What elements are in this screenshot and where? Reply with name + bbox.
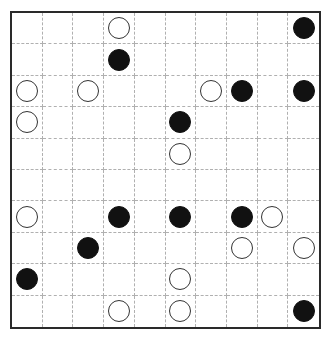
grid-cell-r0-c5[interactable] xyxy=(166,13,197,44)
grid-cell-r3-c7[interactable] xyxy=(227,107,258,138)
grid-cell-r9-c1[interactable] xyxy=(43,296,74,327)
grid-cell-r4-c6[interactable] xyxy=(196,139,227,170)
grid-cell-r7-c2[interactable] xyxy=(73,233,104,264)
grid-cell-r5-c8[interactable] xyxy=(258,170,289,201)
grid-cell-r5-c0[interactable] xyxy=(12,170,43,201)
grid-cell-r2-c5[interactable] xyxy=(166,76,197,107)
grid-cell-r9-c2[interactable] xyxy=(73,296,104,327)
grid-cell-r7-c3[interactable] xyxy=(104,233,135,264)
grid-cell-r8-c0[interactable] xyxy=(12,264,43,295)
grid-cell-r4-c3[interactable] xyxy=(104,139,135,170)
grid-cell-r6-c3[interactable] xyxy=(104,201,135,232)
grid-cell-r9-c4[interactable] xyxy=(135,296,166,327)
grid-cell-r1-c9[interactable] xyxy=(288,44,319,75)
grid-cell-r0-c3[interactable] xyxy=(104,13,135,44)
grid-cell-r6-c4[interactable] xyxy=(135,201,166,232)
grid-cell-r9-c3[interactable] xyxy=(104,296,135,327)
grid-cell-r5-c2[interactable] xyxy=(73,170,104,201)
grid-cell-r6-c8[interactable] xyxy=(258,201,289,232)
grid-cell-r1-c2[interactable] xyxy=(73,44,104,75)
grid-cell-r4-c2[interactable] xyxy=(73,139,104,170)
grid-cell-r9-c8[interactable] xyxy=(258,296,289,327)
grid-cell-r2-c8[interactable] xyxy=(258,76,289,107)
grid-cell-r9-c9[interactable] xyxy=(288,296,319,327)
grid-cell-r3-c1[interactable] xyxy=(43,107,74,138)
grid-cell-r2-c2[interactable] xyxy=(73,76,104,107)
grid-cell-r0-c7[interactable] xyxy=(227,13,258,44)
grid-cell-r5-c6[interactable] xyxy=(196,170,227,201)
grid-cell-r4-c0[interactable] xyxy=(12,139,43,170)
grid-cell-r3-c9[interactable] xyxy=(288,107,319,138)
grid-cell-r7-c1[interactable] xyxy=(43,233,74,264)
grid-cell-r4-c7[interactable] xyxy=(227,139,258,170)
grid-cell-r1-c4[interactable] xyxy=(135,44,166,75)
grid-cell-r8-c4[interactable] xyxy=(135,264,166,295)
grid-cell-r8-c6[interactable] xyxy=(196,264,227,295)
grid-cell-r7-c8[interactable] xyxy=(258,233,289,264)
grid-cell-r0-c1[interactable] xyxy=(43,13,74,44)
grid-cell-r5-c1[interactable] xyxy=(43,170,74,201)
grid-cell-r4-c8[interactable] xyxy=(258,139,289,170)
grid-cell-r9-c6[interactable] xyxy=(196,296,227,327)
grid-cell-r1-c1[interactable] xyxy=(43,44,74,75)
grid-cell-r3-c0[interactable] xyxy=(12,107,43,138)
grid-cell-r7-c9[interactable] xyxy=(288,233,319,264)
grid-cell-r9-c0[interactable] xyxy=(12,296,43,327)
grid-cell-r6-c2[interactable] xyxy=(73,201,104,232)
grid-cell-r0-c8[interactable] xyxy=(258,13,289,44)
grid-cell-r5-c5[interactable] xyxy=(166,170,197,201)
grid-cell-r3-c8[interactable] xyxy=(258,107,289,138)
grid-cell-r7-c7[interactable] xyxy=(227,233,258,264)
grid-cell-r6-c7[interactable] xyxy=(227,201,258,232)
grid-cell-r3-c3[interactable] xyxy=(104,107,135,138)
grid-cell-r6-c5[interactable] xyxy=(166,201,197,232)
grid-cell-r9-c7[interactable] xyxy=(227,296,258,327)
grid-cell-r1-c3[interactable] xyxy=(104,44,135,75)
grid-cell-r6-c9[interactable] xyxy=(288,201,319,232)
grid-cell-r2-c0[interactable] xyxy=(12,76,43,107)
grid-cell-r8-c1[interactable] xyxy=(43,264,74,295)
grid-cell-r5-c7[interactable] xyxy=(227,170,258,201)
grid-cell-r0-c6[interactable] xyxy=(196,13,227,44)
grid-cell-r9-c5[interactable] xyxy=(166,296,197,327)
grid-cell-r1-c5[interactable] xyxy=(166,44,197,75)
grid-cell-r8-c7[interactable] xyxy=(227,264,258,295)
grid-cell-r3-c5[interactable] xyxy=(166,107,197,138)
grid-cell-r2-c6[interactable] xyxy=(196,76,227,107)
grid-cell-r2-c7[interactable] xyxy=(227,76,258,107)
grid-cell-r0-c0[interactable] xyxy=(12,13,43,44)
grid-cell-r4-c4[interactable] xyxy=(135,139,166,170)
grid-cell-r7-c0[interactable] xyxy=(12,233,43,264)
grid-cell-r1-c8[interactable] xyxy=(258,44,289,75)
grid-cell-r1-c7[interactable] xyxy=(227,44,258,75)
grid-cell-r2-c4[interactable] xyxy=(135,76,166,107)
grid-cell-r7-c5[interactable] xyxy=(166,233,197,264)
grid-cell-r6-c1[interactable] xyxy=(43,201,74,232)
grid-cell-r8-c8[interactable] xyxy=(258,264,289,295)
grid-cell-r3-c6[interactable] xyxy=(196,107,227,138)
grid-cell-r4-c9[interactable] xyxy=(288,139,319,170)
grid-cell-r0-c9[interactable] xyxy=(288,13,319,44)
grid-cell-r2-c9[interactable] xyxy=(288,76,319,107)
grid-cell-r0-c4[interactable] xyxy=(135,13,166,44)
grid-cell-r1-c0[interactable] xyxy=(12,44,43,75)
grid-cell-r6-c0[interactable] xyxy=(12,201,43,232)
grid-cell-r8-c2[interactable] xyxy=(73,264,104,295)
grid-cell-r8-c9[interactable] xyxy=(288,264,319,295)
grid-cell-r5-c3[interactable] xyxy=(104,170,135,201)
grid-cell-r7-c4[interactable] xyxy=(135,233,166,264)
grid-cell-r2-c1[interactable] xyxy=(43,76,74,107)
grid-cell-r5-c9[interactable] xyxy=(288,170,319,201)
grid-cell-r7-c6[interactable] xyxy=(196,233,227,264)
grid-cell-r3-c4[interactable] xyxy=(135,107,166,138)
grid-cell-r5-c4[interactable] xyxy=(135,170,166,201)
grid-cell-r8-c5[interactable] xyxy=(166,264,197,295)
grid-cell-r2-c3[interactable] xyxy=(104,76,135,107)
grid-cell-r8-c3[interactable] xyxy=(104,264,135,295)
grid-cell-r6-c6[interactable] xyxy=(196,201,227,232)
grid-cell-r3-c2[interactable] xyxy=(73,107,104,138)
grid-cell-r0-c2[interactable] xyxy=(73,13,104,44)
grid-cell-r4-c1[interactable] xyxy=(43,139,74,170)
grid-cell-r4-c5[interactable] xyxy=(166,139,197,170)
grid-cell-r1-c6[interactable] xyxy=(196,44,227,75)
